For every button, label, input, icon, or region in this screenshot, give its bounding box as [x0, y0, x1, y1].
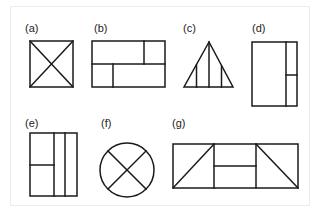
figure-a: (a): [25, 22, 73, 87]
figure-d: (d): [252, 22, 297, 106]
figure-g: (g): [172, 117, 298, 188]
figure-e-label: (e): [25, 117, 38, 129]
figure-c: (c): [183, 22, 233, 87]
figure-e: (e): [25, 117, 77, 196]
figure-c-label: (c): [183, 22, 196, 34]
figure-a-label: (a): [25, 22, 38, 34]
figure-b: (b): [92, 22, 165, 87]
figure-d-label: (d): [252, 22, 265, 34]
figure-g-label: (g): [172, 117, 185, 129]
diagonal-line: [173, 144, 214, 188]
figure-f: (f): [100, 117, 154, 197]
figure-b-label: (b): [94, 22, 107, 34]
rectangle-outline: [252, 42, 297, 106]
figure-f-label: (f): [101, 117, 111, 129]
figures-canvas: (a) (b) (c) (d) (e) (f): [0, 0, 321, 219]
diagonal-line: [256, 144, 298, 188]
